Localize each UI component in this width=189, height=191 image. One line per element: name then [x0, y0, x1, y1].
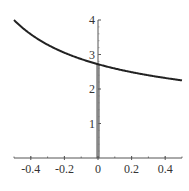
y-tick-label: 2	[89, 82, 95, 96]
function-plot: -0.4-0.200.20.4 1234	[0, 0, 189, 191]
y-tick-label: 4	[89, 13, 95, 27]
x-tick-label: 0.4	[158, 162, 173, 176]
x-tick-label: -0.4	[21, 162, 40, 176]
x-tick-label: 0	[95, 162, 101, 176]
x-tick-label: -0.2	[55, 162, 74, 176]
x-tick-label: 0.2	[124, 162, 139, 176]
y-tick-label: 1	[89, 117, 95, 131]
x-axis-ticks: -0.4-0.200.20.4	[14, 156, 182, 176]
y-axis-ticks: 1234	[89, 13, 101, 151]
y-tick-label: 3	[89, 48, 95, 62]
